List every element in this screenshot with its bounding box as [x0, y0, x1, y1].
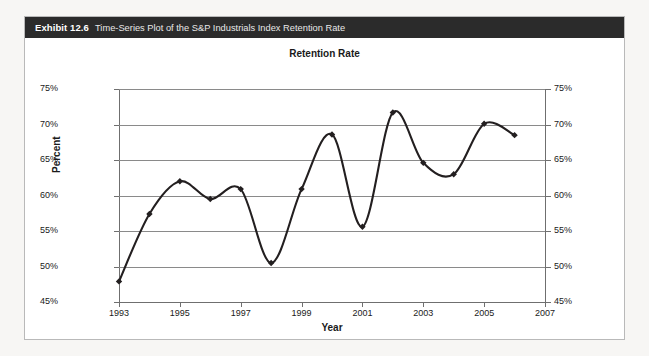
x-axis-label-2007: 2007	[525, 308, 565, 318]
exhibit-card: Exhibit 12.6 Time-Series Plot of the S&P…	[24, 16, 625, 340]
series-markers	[116, 109, 518, 284]
y-axis-label-right-60: 60%	[554, 190, 572, 200]
data-point-1993	[116, 278, 122, 284]
x-tick-1997	[241, 303, 242, 307]
y-axis-label-left-60: 60%	[40, 190, 58, 200]
x-axis-label-1993: 1993	[99, 308, 139, 318]
retention-rate-series	[119, 89, 545, 302]
x-tick-2001	[362, 303, 363, 307]
x-axis-label-1995: 1995	[160, 308, 200, 318]
x-axis-label-1997: 1997	[221, 308, 261, 318]
y-axis-label-right-45: 45%	[554, 296, 572, 306]
y-tick-right-60	[546, 196, 551, 197]
y-axis-label-right-70: 70%	[554, 119, 572, 129]
y-axis-label-left-75: 75%	[40, 83, 58, 93]
x-axis-label-2003: 2003	[403, 308, 443, 318]
exhibit-caption: Time-Series Plot of the S&P Industrials …	[95, 23, 345, 33]
x-tick-1993	[119, 303, 120, 307]
y-axis-label-right-50: 50%	[554, 261, 572, 271]
x-tick-1999	[302, 303, 303, 307]
x-axis-label-1999: 1999	[282, 308, 322, 318]
series-line	[119, 111, 515, 281]
plot-area	[119, 89, 545, 302]
chart-area: Retention Rate Percent 45%45%50%50%55%55…	[25, 38, 624, 341]
scanned-page-background: Exhibit 12.6 Time-Series Plot of the S&P…	[0, 0, 649, 356]
y-axis-label-right-75: 75%	[554, 83, 572, 93]
exhibit-label: Exhibit 12.6	[35, 22, 89, 33]
y-axis-label-left-50: 50%	[40, 261, 58, 271]
x-axis-title: Year	[119, 322, 545, 333]
y-tick-right-65	[546, 160, 551, 161]
x-axis-label-2001: 2001	[342, 308, 382, 318]
y-axis-label-left-70: 70%	[40, 119, 58, 129]
y-tick-right-45	[546, 302, 551, 303]
x-tick-2005	[484, 303, 485, 307]
y-axis-label-right-55: 55%	[554, 225, 572, 235]
y-tick-right-55	[546, 231, 551, 232]
x-tick-1995	[180, 303, 181, 307]
x-axis-label-2005: 2005	[464, 308, 504, 318]
y-tick-right-70	[546, 125, 551, 126]
x-tick-2007	[545, 303, 546, 307]
data-point-1999	[298, 186, 304, 192]
data-point-1995	[177, 178, 183, 184]
y-axis-label-left-45: 45%	[40, 296, 58, 306]
data-point-1996	[207, 196, 213, 202]
y-axis-label-right-65: 65%	[554, 154, 572, 164]
y-tick-right-50	[546, 267, 551, 268]
y-axis-label-left-65: 65%	[40, 154, 58, 164]
x-tick-2003	[423, 303, 424, 307]
gridline-45	[119, 302, 545, 303]
chart-title: Retention Rate	[25, 48, 624, 59]
y-tick-right-75	[546, 89, 551, 90]
exhibit-header-bar: Exhibit 12.6 Time-Series Plot of the S&P…	[25, 17, 624, 38]
y-axis-label-left-55: 55%	[40, 225, 58, 235]
